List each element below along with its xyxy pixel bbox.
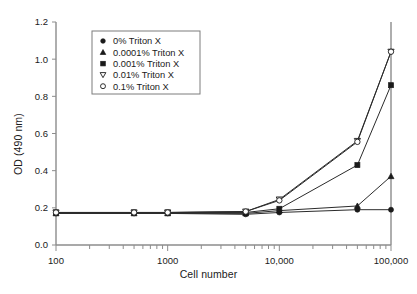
legend-label: 0.0001% Triton X [113, 48, 184, 58]
y-tick-label: 0.2 [35, 202, 48, 213]
chart-figure: 0.00.20.40.60.81.01.2100100010,000100,00… [0, 0, 417, 294]
y-tick-label: 0.0 [35, 239, 48, 250]
legend-label: 0.01% Triton X [113, 70, 174, 80]
x-tick-label: 100 [48, 255, 64, 266]
y-axis-title: OD (490 nm) [12, 113, 24, 175]
x-tick-label: 1000 [157, 255, 178, 266]
y-tick-label: 1.0 [35, 54, 48, 65]
x-axis-title: Cell number [0, 268, 417, 280]
series-1 [53, 173, 394, 216]
legend-label: 0% Triton X [113, 36, 161, 46]
y-tick-label: 0.4 [35, 165, 48, 176]
legend-label: 0.001% Triton X [113, 59, 179, 69]
chart-plot-area: 0.00.20.40.60.81.01.2100100010,000100,00… [0, 0, 417, 294]
y-tick-label: 0.6 [35, 128, 48, 139]
y-tick-label: 0.8 [35, 91, 48, 102]
legend-label: 0.1% Triton X [113, 82, 169, 92]
y-tick-label: 1.2 [35, 16, 48, 27]
x-tick-label: 100,000 [374, 255, 408, 266]
chart-legend: 0% Triton X0.0001% Triton X0.001% Triton… [92, 31, 200, 94]
series-2 [54, 83, 394, 215]
x-tick-label: 10,000 [265, 255, 294, 266]
